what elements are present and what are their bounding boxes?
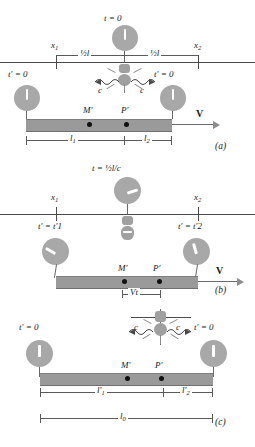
panel-tag-c: (c) [215, 417, 226, 427]
bar-point-p-a [124, 122, 129, 127]
clock-stem [26, 111, 27, 119]
clock-label-left-b: t′ = t′1 [38, 222, 62, 231]
dim-label-l0-c: l0 [118, 412, 128, 421]
flash-spike [133, 68, 141, 73]
velocity-arrow-line-b [198, 281, 238, 282]
axis-label-x2-a: x2 [194, 41, 201, 50]
clock-stem [172, 111, 173, 119]
light-source-body-c [155, 311, 166, 322]
bar-point-p-b [157, 279, 162, 284]
panel-b: t = ½l/c x1 x2 t′ = t′1 t′ = t′2 M′ P′ V… [0, 152, 255, 295]
clock-hand [45, 247, 56, 255]
light-ray-left-a [88, 76, 120, 88]
speed-label-left-a: c [98, 86, 102, 95]
velocity-arrow-head-b [237, 278, 244, 286]
clock-hand [124, 29, 127, 40]
panel-tag-b: (b) [215, 285, 226, 295]
clock-stem [124, 51, 125, 62]
clock-label-left-a: t′ = 0 [8, 70, 28, 79]
bar-point-label-m-a: M′ [83, 106, 92, 115]
velocity-label-a: V [196, 108, 203, 119]
panel-c: c c t′ = 0 t′ = 0 M′ P′ l′1 l′2 l0 (c) [0, 295, 255, 447]
clock-rest-frame-a [112, 25, 138, 51]
dim-tick [212, 414, 213, 423]
bar-point-label-p-a: P′ [121, 106, 128, 115]
dim-label-l2-a: l2 [142, 134, 152, 143]
flash-spike [107, 68, 115, 73]
clock-hand [26, 89, 29, 100]
flash-spike [143, 319, 151, 324]
bar-point-label-p-c: P′ [155, 361, 162, 370]
dim-tick [40, 388, 41, 397]
bar-point-m-b [122, 279, 127, 284]
flash-spike [160, 335, 161, 344]
clock-moving-left-b [42, 238, 69, 265]
clock-moving-right-c [200, 340, 227, 367]
clock-stem [213, 367, 214, 377]
clock-label-right-a: t′ = 0 [154, 70, 174, 79]
clock-moving-left-c [26, 340, 53, 367]
dim-tick [212, 388, 213, 397]
bar-point-label-m-c: M′ [121, 361, 130, 370]
panel-b-time-label: t = ½l/c [92, 164, 121, 173]
speed-label-right-c: c [176, 323, 180, 332]
bar-point-label-p-b: P′ [153, 264, 160, 273]
bar-point-p-c [159, 376, 164, 381]
clock-moving-right-a [160, 85, 186, 111]
clock-label-right-c: t′ = 0 [194, 323, 214, 332]
dim-label-half-right-a: ½l [148, 49, 161, 58]
clock-moving-left-a [14, 85, 40, 111]
light-ray-left-c [122, 326, 154, 338]
dim-label-half-left-a: ½l [78, 49, 91, 58]
dim-label-l1-prime-c: l′1 [95, 386, 107, 395]
clock-stem [127, 204, 128, 214]
clock-hand [127, 188, 138, 194]
panel-a: t = 0 x1 x2 ½l ½l c c t′ = 0 t′ = 0 [0, 0, 255, 152]
dim-tick [171, 136, 172, 145]
clock-hand [192, 243, 197, 254]
axis-label-x2-b: x2 [194, 193, 201, 202]
bar-point-label-m-b: M′ [118, 264, 127, 273]
dim-tick [163, 388, 164, 397]
dim-tick [40, 414, 41, 423]
clock-hand [212, 345, 215, 357]
axis-label-x1-b: x1 [51, 193, 58, 202]
rest-frame-axis-a [0, 62, 255, 63]
flash-spike [124, 84, 125, 93]
light-source-body-a [119, 64, 130, 73]
moving-bar-a [26, 119, 172, 132]
rest-frame-axis-b [0, 214, 255, 215]
dim-tick [124, 136, 125, 145]
panel-tag-a: (a) [215, 141, 226, 151]
velocity-label-b: V [216, 265, 223, 276]
clock-hand [38, 345, 41, 357]
bar-point-m-c [125, 376, 130, 381]
light-source-bulb-b [121, 226, 134, 240]
clock-label-left-c: t′ = 0 [19, 323, 39, 332]
clock-label-right-b: t′ = t′2 [178, 222, 202, 231]
axis-tick-x1-b [56, 207, 57, 221]
dim-tick [26, 136, 27, 145]
clock-rest-frame-b [114, 177, 141, 204]
axis-tick-x1-a [56, 55, 57, 69]
dim-label-l1-a: l1 [68, 134, 78, 143]
axis-tick-x2-b [198, 207, 199, 221]
velocity-arrow-head-a [213, 121, 220, 129]
moving-bar-b [56, 276, 198, 289]
bar-point-m-a [87, 122, 92, 127]
clock-hand [172, 89, 175, 100]
dim-label-l2-prime-c: l′2 [180, 386, 192, 395]
axis-label-x1-a: x1 [51, 41, 58, 50]
panel-a-time-label: t = 0 [104, 14, 122, 23]
light-source-slit-b [123, 231, 132, 233]
speed-label-left-c: c [134, 323, 138, 332]
light-source-body-b [122, 216, 133, 225]
velocity-arrow-line-a [172, 124, 214, 125]
axis-tick-x2-a [198, 55, 199, 69]
clock-moving-right-b [183, 238, 210, 265]
speed-label-right-a: c [140, 86, 144, 95]
